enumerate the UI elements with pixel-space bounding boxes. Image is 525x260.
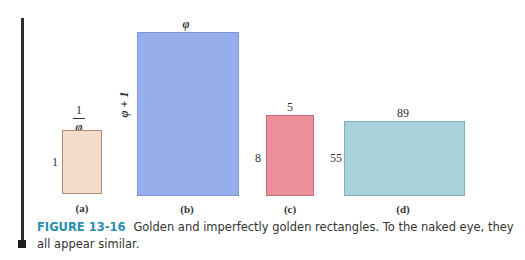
rect-c-width-label: 5 (280, 101, 300, 113)
rect-b-height-label: φ + 1 (117, 85, 132, 125)
rect-c-height-label: 8 (253, 152, 263, 164)
rect-d-width-label: 89 (391, 107, 415, 119)
rect-c-imperfect (266, 115, 314, 196)
rect-a-width-label: 1 φ (73, 104, 85, 133)
rect-d-imperfect (344, 121, 465, 196)
figure-number: FIGURE 13-16 (37, 220, 125, 234)
rect-c-sublabel: (c) (275, 204, 305, 215)
rect-b-width-label: φ (176, 18, 196, 30)
rect-d-sublabel: (d) (388, 204, 418, 215)
figure-caption: FIGURE 13-16Golden and imperfectly golde… (37, 219, 517, 253)
fraction-bar (73, 118, 85, 119)
margin-rule (21, 18, 24, 244)
rect-a-golden (62, 130, 102, 194)
rect-b-golden (137, 32, 239, 196)
rect-b-sublabel: (b) (172, 204, 202, 215)
rect-a-sublabel: (a) (67, 203, 97, 214)
rect-d-height-label: 55 (328, 152, 344, 164)
rect-a-height-label: 1 (50, 156, 60, 168)
margin-rule-end-marker (18, 240, 26, 248)
rect-a-width-numerator: 1 (76, 104, 82, 116)
